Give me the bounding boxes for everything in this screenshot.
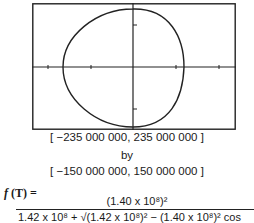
by-label: by [0,149,254,161]
calculator-graph-window [32,3,236,130]
x-range-label: [ −235 000 000, 235 000 000 ] [0,131,254,143]
orbit-curve [63,9,184,127]
formula-numerator: (1.40 x 10⁸)² [0,195,254,207]
y-range-label: [ −150 000 000, 150 000 000 ] [0,165,254,177]
fraction-bar [16,209,254,210]
formula-denominator: 1.42 x 10⁸ + √(1.42 x 10⁸)² − (1.40 x 10… [18,211,241,223]
